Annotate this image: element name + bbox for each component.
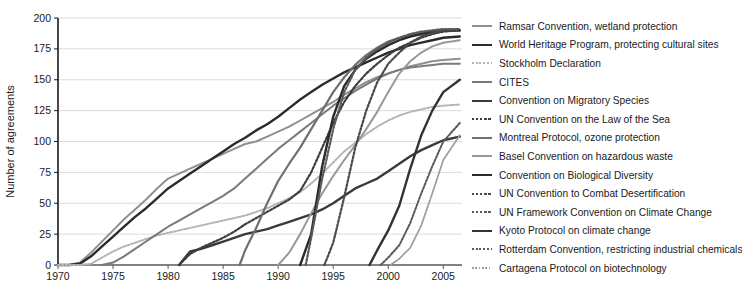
legend-swatch-icon <box>472 263 492 273</box>
legend-item[interactable]: Montreal Protocol, ozone protection <box>472 129 722 148</box>
x-tick-label: 2005 <box>432 270 456 282</box>
y-tick-label: 100 <box>33 135 51 147</box>
legend-item[interactable]: World Heritage Program, protecting cultu… <box>472 36 722 55</box>
legend-label: Basel Convention on hazardous waste <box>499 151 673 162</box>
y-tick-label: 200 <box>33 12 51 24</box>
legend-swatch-icon <box>472 40 492 50</box>
legend-item[interactable]: CITES <box>472 73 722 92</box>
legend-swatch-icon <box>472 77 492 87</box>
legend-label: Convention on Migratory Species <box>499 95 649 106</box>
legend-item[interactable]: Ramsar Convention, wetland protection <box>472 17 722 36</box>
series-line <box>381 123 460 265</box>
legend-label: Convention on Biological Diversity <box>499 170 653 181</box>
x-tick-label: 2000 <box>377 270 401 282</box>
legend-label: Cartagena Protocol on biotechnology <box>499 263 667 274</box>
x-tick-label: 1980 <box>156 270 180 282</box>
y-tick-label: 150 <box>33 73 51 85</box>
y-tick-label: 50 <box>39 197 51 209</box>
legend-item[interactable]: Convention on Migratory Species <box>472 91 722 110</box>
legend-swatch-icon <box>472 21 492 31</box>
legend-swatch-icon <box>472 226 492 236</box>
legend-swatch-icon <box>472 114 492 124</box>
x-tick-label: 1975 <box>101 270 125 282</box>
legend-item[interactable]: Stockholm Declaration <box>472 54 722 73</box>
legend-label: World Heritage Program, protecting cultu… <box>499 39 719 50</box>
y-axis-title: Number of agreements <box>4 85 16 198</box>
legend-swatch-icon <box>472 133 492 143</box>
y-tick-label: 175 <box>33 42 51 54</box>
legend-item[interactable]: UN Convention on the Law of the Sea <box>472 110 722 129</box>
legend-item[interactable]: Cartagena Protocol on biotechnology <box>472 259 722 278</box>
legend-item[interactable]: Convention on Biological Diversity <box>472 166 722 185</box>
legend-label: UN Convention to Combat Desertification <box>499 188 685 199</box>
legend-label: Montreal Protocol, ozone protection <box>499 132 660 143</box>
series-line <box>102 64 460 265</box>
x-tick-label: 1970 <box>46 270 70 282</box>
legend-item[interactable]: Kyoto Protocol on climate change <box>472 222 722 241</box>
legend-label: UN Framework Convention on Climate Chang… <box>499 207 712 218</box>
x-tick-label: 1985 <box>211 270 235 282</box>
chart-legend: Ramsar Convention, wetland protectionWor… <box>472 17 722 277</box>
legend-label: UN Convention on the Law of the Sea <box>499 114 670 125</box>
x-tick-label: 1990 <box>266 270 290 282</box>
series-line <box>300 30 460 265</box>
legend-label: Kyoto Protocol on climate change <box>499 225 651 236</box>
legend-item[interactable]: Basel Convention on hazardous waste <box>472 147 722 166</box>
y-tick-label: 75 <box>39 166 51 178</box>
legend-swatch-icon <box>472 96 492 106</box>
legend-swatch-icon <box>472 189 492 199</box>
y-axis: 0255075100125150175200 <box>33 12 58 271</box>
y-tick-label: 125 <box>33 104 51 116</box>
y-tick-label: 0 <box>45 259 51 271</box>
series-lines <box>58 29 460 265</box>
legend-label: Ramsar Convention, wetland protection <box>499 21 677 32</box>
legend-label: CITES <box>499 77 529 88</box>
legend-swatch-icon <box>472 207 492 217</box>
legend-label: Stockholm Declaration <box>499 58 601 69</box>
legend-item[interactable]: Rotterdam Convention, restricting indust… <box>472 240 722 259</box>
legend-swatch-icon <box>472 58 492 68</box>
series-line <box>278 40 460 265</box>
legend-swatch-icon <box>472 151 492 161</box>
legend-item[interactable]: UN Convention to Combat Desertification <box>472 184 722 203</box>
x-axis: 19701975198019851990199520002005 <box>46 265 462 282</box>
y-tick-label: 25 <box>39 228 51 240</box>
legend-item[interactable]: UN Framework Convention on Climate Chang… <box>472 203 722 222</box>
x-tick-label: 1995 <box>322 270 346 282</box>
legend-label: Rotterdam Convention, restricting indust… <box>499 244 742 255</box>
axis-labels: Number of agreements <box>4 85 16 198</box>
legend-swatch-icon <box>472 244 492 254</box>
legend-swatch-icon <box>472 170 492 180</box>
